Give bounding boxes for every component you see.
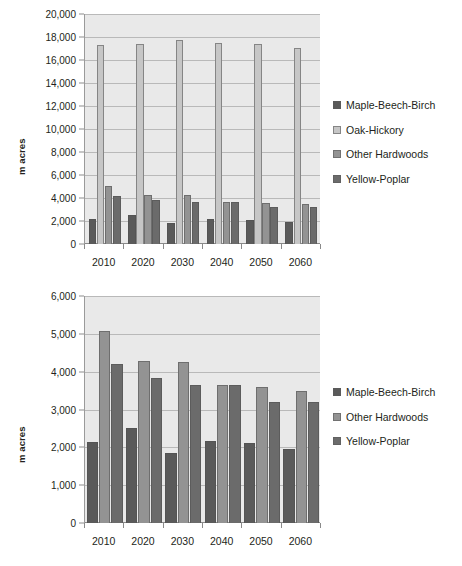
bar-group <box>282 296 321 523</box>
x-axis-label-2050: 2050 <box>249 535 272 547</box>
x-axis-label-2020: 2020 <box>131 535 154 547</box>
bar-group <box>203 296 242 523</box>
legend-item-maple-beech-birch: Maple-Beech-Birch <box>333 100 435 111</box>
x-axis-label-2050: 2050 <box>249 256 272 268</box>
bar-maple-beech-birch-2020 <box>128 215 136 244</box>
bar-yellow-poplar-2010 <box>113 196 121 244</box>
bar-yellow-poplar-2020 <box>151 378 163 523</box>
chart-bottom-legend: Maple-Beech-BirchOther HardwoodsYellow-P… <box>333 387 435 461</box>
y-axis-tick-label: 14,000 <box>45 78 76 89</box>
legend-swatch-icon <box>333 101 341 109</box>
x-axis-tick-mark <box>123 523 124 528</box>
chart-top-legend: Maple-Beech-BirchOak-HickoryOther Hardwo… <box>333 100 435 198</box>
bar-oak-hickory-2020 <box>136 44 144 244</box>
bar-maple-beech-birch-2050 <box>246 220 254 244</box>
legend-swatch-icon <box>333 388 341 396</box>
x-axis-label-2040: 2040 <box>210 256 233 268</box>
bar-maple-beech-birch-2050 <box>244 443 256 523</box>
bar-group <box>85 296 124 523</box>
bar-other-hardwoods-2010 <box>99 331 111 523</box>
bar-group <box>282 14 321 244</box>
x-axis-label-2030: 2030 <box>171 256 194 268</box>
y-axis-tick-label: 2,000 <box>51 442 76 453</box>
bar-maple-beech-birch-2060 <box>283 449 295 523</box>
y-axis-tick-label: 2,000 <box>51 216 76 227</box>
chart-top-y-axis-ticks: 02,0004,0006,0008,00010,00012,00014,0001… <box>0 14 78 244</box>
bar-group <box>203 14 242 244</box>
legend-label: Yellow-Poplar <box>346 436 410 447</box>
legend-item-other-hardwoods: Other Hardwoods <box>333 412 435 423</box>
x-axis-tick-mark <box>84 244 85 249</box>
bar-group <box>164 14 203 244</box>
x-axis-tick-mark <box>281 244 282 249</box>
x-axis-label-2060: 2060 <box>289 535 312 547</box>
bar-other-hardwoods-2020 <box>144 195 152 244</box>
chart-bottom-plot-area <box>84 296 320 523</box>
legend-label: Other Hardwoods <box>346 412 428 423</box>
bar-other-hardwoods-2020 <box>138 361 150 523</box>
y-axis-tick-label: 5,000 <box>51 328 76 339</box>
legend-label: Maple-Beech-Birch <box>346 100 435 111</box>
bar-oak-hickory-2050 <box>254 44 262 244</box>
bar-group <box>85 14 124 244</box>
y-axis-tick-label: 20,000 <box>45 9 76 20</box>
bar-maple-beech-birch-2060 <box>285 222 293 244</box>
bar-maple-beech-birch-2020 <box>126 428 138 523</box>
x-axis-tick-mark <box>163 244 164 249</box>
bar-other-hardwoods-2030 <box>184 195 192 244</box>
bar-yellow-poplar-2030 <box>190 385 202 523</box>
bar-yellow-poplar-2060 <box>308 402 320 523</box>
x-axis-tick-mark <box>202 244 203 249</box>
legend-item-oak-hickory: Oak-Hickory <box>333 125 435 136</box>
x-axis-tick-mark <box>320 523 321 528</box>
y-axis-tick-label: 16,000 <box>45 55 76 66</box>
legend-label: Oak-Hickory <box>346 125 404 136</box>
x-axis-tick-mark <box>320 244 321 249</box>
x-axis-label-2020: 2020 <box>131 256 154 268</box>
bar-maple-beech-birch-2040 <box>207 219 215 244</box>
y-axis-tick-label: 0 <box>70 518 76 529</box>
bar-oak-hickory-2060 <box>294 48 302 244</box>
x-axis-tick-mark <box>241 523 242 528</box>
bar-yellow-poplar-2040 <box>229 385 241 523</box>
x-axis-tick-mark <box>84 523 85 528</box>
chart-bottom-y-axis-ticks: 01,0002,0003,0004,0005,0006,000 <box>0 296 78 523</box>
bar-other-hardwoods-2010 <box>105 186 113 244</box>
bar-other-hardwoods-2060 <box>302 204 310 244</box>
bar-oak-hickory-2040 <box>215 43 223 244</box>
y-axis-tick-label: 3,000 <box>51 404 76 415</box>
y-axis-tick-label: 12,000 <box>45 101 76 112</box>
legend-swatch-icon <box>333 126 341 134</box>
legend-item-yellow-poplar: Yellow-Poplar <box>333 436 435 447</box>
bar-yellow-poplar-2010 <box>111 364 123 523</box>
x-axis-label-2030: 2030 <box>171 535 194 547</box>
bar-yellow-poplar-2030 <box>192 202 200 244</box>
bar-oak-hickory-2010 <box>97 45 105 244</box>
legend-item-maple-beech-birch: Maple-Beech-Birch <box>333 387 435 398</box>
bar-yellow-poplar-2050 <box>270 207 278 244</box>
legend-label: Yellow-Poplar <box>346 174 410 185</box>
bar-maple-beech-birch-2030 <box>165 453 177 523</box>
chart-bottom: m acres 01,0002,0003,0004,0005,0006,000 … <box>0 283 462 566</box>
legend-item-yellow-poplar: Yellow-Poplar <box>333 174 435 185</box>
y-axis-tick-label: 4,000 <box>51 366 76 377</box>
legend-label: Maple-Beech-Birch <box>346 387 435 398</box>
x-axis-tick-mark <box>202 523 203 528</box>
bar-yellow-poplar-2060 <box>310 207 318 244</box>
legend-swatch-icon <box>333 437 341 445</box>
x-axis-label-2010: 2010 <box>92 535 115 547</box>
bar-maple-beech-birch-2010 <box>89 219 97 244</box>
bar-other-hardwoods-2040 <box>217 385 229 523</box>
legend-label: Other Hardwoods <box>346 149 428 160</box>
x-axis-label-2040: 2040 <box>210 535 233 547</box>
y-axis-tick-label: 1,000 <box>51 480 76 491</box>
y-axis-tick-label: 6,000 <box>51 291 76 302</box>
legend-swatch-icon <box>333 175 341 183</box>
legend-swatch-icon <box>333 413 341 421</box>
bar-other-hardwoods-2050 <box>256 387 268 523</box>
x-axis-tick-mark <box>281 523 282 528</box>
chart-top-plot-area <box>84 14 320 244</box>
bar-group <box>124 14 163 244</box>
chart-top: m acres 02,0004,0006,0008,00010,00012,00… <box>0 0 462 283</box>
bar-maple-beech-birch-2010 <box>87 442 99 523</box>
